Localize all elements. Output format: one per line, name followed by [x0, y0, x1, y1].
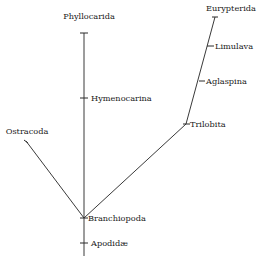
label-hymenocarina: Hymenocarina	[91, 93, 152, 103]
trilobita-branch-line	[84, 124, 186, 218]
label-apodidae: Apodidæ	[90, 238, 128, 248]
label-aglaspina: Aglaspina	[205, 76, 247, 86]
ostracoda-tick	[24, 140, 28, 143]
label-phyllocarida: Phyllocarida	[63, 11, 115, 21]
label-eurypterida: Eurypterida	[206, 3, 256, 13]
ostracoda-branch-line	[26, 141, 84, 218]
phylogenetic-tree-diagram: Phyllocarida Hymenocarina Ostracoda Bran…	[0, 0, 259, 263]
label-branchiopoda: Branchiopoda	[88, 213, 146, 223]
label-trilobita: Trilobita	[190, 119, 226, 129]
label-ostracoda: Ostracoda	[6, 126, 49, 136]
eurypterida-branch-line	[186, 17, 215, 124]
label-limulava: Limulava	[215, 41, 253, 51]
